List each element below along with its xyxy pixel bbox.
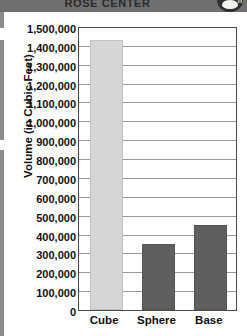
y-axis-tick-label: 900,000 <box>14 136 76 148</box>
bar-base <box>194 225 227 310</box>
y-axis-tick-label: 100,000 <box>14 287 76 299</box>
page-edge-strip-bottom <box>0 150 4 336</box>
header-badge-icon: h <box>217 0 243 12</box>
x-axis-label-sphere: Sphere <box>137 314 176 326</box>
y-axis-tick-label: 400,000 <box>14 231 76 243</box>
plot-top-border <box>79 27 236 28</box>
y-axis-tick-label: 1,200,000 <box>14 80 76 92</box>
y-axis-tick-label: 1,000,000 <box>14 117 76 129</box>
chart-page: ROSE CENTER h Volume (in Cubic Feet) 1,5… <box>0 0 247 336</box>
x-axis-label-base: Base <box>195 314 223 326</box>
y-axis-tick-label: 1,300,000 <box>14 61 76 73</box>
y-axis-tick-label: 800,000 <box>14 155 76 167</box>
header-badge-inner-shape <box>222 0 238 9</box>
page-edge-strip-top <box>0 12 4 28</box>
y-axis-tick-labels: 1,500,0001,400,0001,300,0001,200,0001,10… <box>14 28 76 312</box>
y-axis-tick-label: 600,000 <box>14 193 76 205</box>
header-badge-letter: h <box>238 0 242 4</box>
bar-sphere <box>142 244 175 310</box>
page-edge-strip-middle <box>0 40 4 140</box>
x-axis-label-cube: Cube <box>90 314 119 326</box>
y-axis-tick-label: 200,000 <box>14 268 76 280</box>
bar-cube <box>90 40 123 310</box>
y-axis-tick-label: 1,100,000 <box>14 98 76 110</box>
y-axis-tick-label: 0 <box>14 306 76 318</box>
y-axis-tick-label: 1,400,000 <box>14 42 76 54</box>
page-header-title: ROSE CENTER <box>0 0 215 9</box>
y-axis-tick-label: 300,000 <box>14 249 76 261</box>
page-header-band: ROSE CENTER h <box>0 0 247 12</box>
x-axis-category-labels: CubeSphereBase <box>78 314 235 334</box>
plot-area <box>78 27 237 311</box>
y-axis-tick-label: 700,000 <box>14 174 76 186</box>
y-axis-tick-label: 1,500,000 <box>14 23 76 35</box>
y-axis-tick-label: 500,000 <box>14 212 76 224</box>
